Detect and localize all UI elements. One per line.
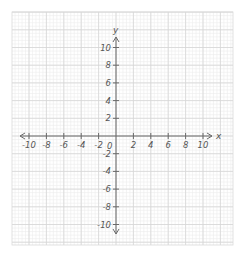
y-axis-label: y — [112, 25, 119, 35]
x-tick-label: -10 — [22, 140, 36, 150]
y-tick-label: -4 — [103, 166, 111, 176]
x-tick-label: -8 — [42, 140, 51, 150]
y-tick-label: 8 — [106, 60, 112, 70]
x-tick-label: 2 — [131, 140, 136, 150]
origin-label: 0 — [107, 141, 112, 151]
y-tick-label: 4 — [106, 96, 111, 106]
coordinate-plane: -10-8-6-4-2246810 108642-2-4-6-8-10 0 y … — [0, 0, 236, 253]
x-tick-label: -6 — [60, 140, 69, 150]
y-tick-label: -8 — [103, 202, 112, 212]
background — [0, 0, 236, 253]
x-axis-label: x — [215, 131, 222, 141]
x-tick-label: 4 — [148, 140, 153, 150]
y-tick-label: 2 — [106, 113, 111, 123]
x-tick-label: 10 — [198, 140, 209, 150]
x-tick-label: -4 — [77, 140, 85, 150]
y-tick-label: -10 — [97, 220, 111, 230]
y-tick-label: 6 — [106, 78, 112, 88]
y-tick-label: 10 — [100, 43, 111, 53]
y-tick-label: -6 — [103, 184, 112, 194]
x-tick-label: 8 — [183, 140, 189, 150]
x-tick-label: 6 — [165, 140, 171, 150]
